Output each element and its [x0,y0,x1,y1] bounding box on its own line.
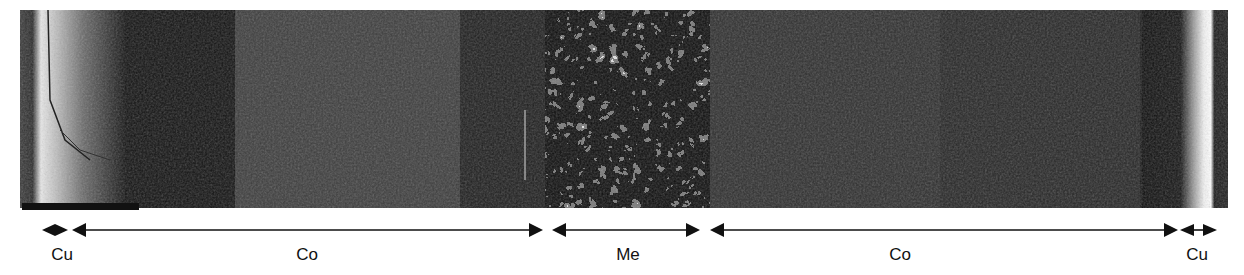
sem-micrograph [20,10,1228,208]
arrow-cu-right [1180,224,1217,236]
label-co-right: Co [889,245,911,265]
arrow-cu-left [42,224,68,236]
label-me: Me [616,245,640,265]
scale-bar [22,203,139,210]
label-cu-right: Cu [1186,245,1208,265]
arrow-co-right [710,223,1178,237]
micrograph-texture [20,10,1228,208]
label-cu-left: Cu [51,245,73,265]
arrow-co-left [72,223,543,237]
figure: Cu Co Me Co Cu [0,0,1244,275]
label-co-left: Co [296,245,318,265]
arrow-me [552,223,700,237]
region-arrows [0,218,1244,242]
